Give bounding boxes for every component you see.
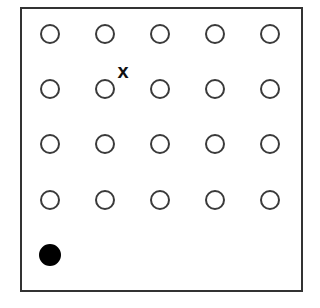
- empty-circle-slot[interactable]: [150, 134, 170, 154]
- empty-circle-slot[interactable]: [95, 190, 115, 210]
- empty-circle-slot[interactable]: [150, 190, 170, 210]
- empty-circle-slot[interactable]: [260, 79, 280, 99]
- empty-circle-slot[interactable]: [150, 79, 170, 99]
- empty-circle-slot[interactable]: [95, 24, 115, 44]
- empty-circle-slot[interactable]: [150, 24, 170, 44]
- empty-circle-slot[interactable]: [205, 134, 225, 154]
- empty-circle-slot[interactable]: [95, 79, 115, 99]
- empty-circle-slot[interactable]: [260, 190, 280, 210]
- empty-circle-slot[interactable]: [40, 134, 60, 154]
- empty-circle-slot[interactable]: [40, 24, 60, 44]
- empty-circle-slot[interactable]: [40, 190, 60, 210]
- filled-circle-piece[interactable]: [39, 244, 61, 266]
- empty-circle-slot[interactable]: [205, 24, 225, 44]
- x-marker: x: [117, 61, 128, 81]
- empty-circle-slot[interactable]: [40, 79, 60, 99]
- empty-circle-slot[interactable]: [205, 79, 225, 99]
- empty-circle-slot[interactable]: [260, 134, 280, 154]
- empty-circle-slot[interactable]: [260, 24, 280, 44]
- empty-circle-slot[interactable]: [205, 190, 225, 210]
- empty-circle-slot[interactable]: [95, 134, 115, 154]
